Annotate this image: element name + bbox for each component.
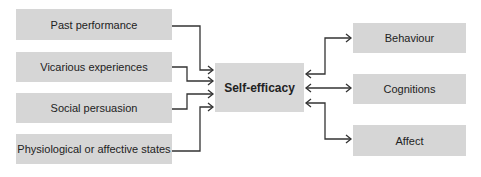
- arrow-behaviour: [306, 38, 351, 74]
- arrow-physiological: [172, 107, 213, 151]
- connector-lines: [0, 0, 481, 177]
- arrow-past-performance: [172, 26, 213, 70]
- arrow-vicarious: [172, 67, 213, 81]
- arrow-affect: [306, 103, 351, 139]
